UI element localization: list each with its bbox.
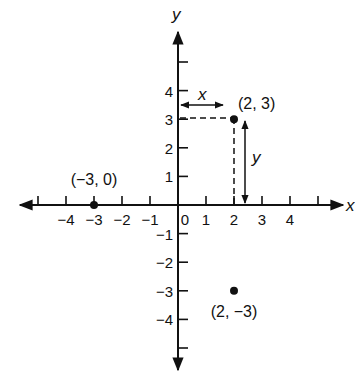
y-tick-label: −4 (156, 311, 173, 328)
data-point (230, 115, 238, 123)
x-tick-label: 1 (202, 211, 210, 228)
y-distance-label: y (251, 148, 262, 167)
x-tick-label: −3 (85, 211, 102, 228)
y-tick-label: 1 (165, 168, 173, 185)
x-tick-label: −2 (113, 211, 130, 228)
y-tick-label: 4 (165, 83, 173, 100)
x-tick-label: 2 (230, 211, 238, 228)
point-label: (−3, 0) (71, 171, 118, 188)
coordinate-plane-diagram: −4−3−2−101234 4321−1−2−3−4 x y x y (2, 3… (0, 0, 355, 389)
y-tick-label: 3 (165, 111, 173, 128)
x-tick-label: 0 (181, 211, 189, 228)
y-tick-label: −3 (156, 283, 173, 300)
y-tick-label: −1 (156, 226, 173, 243)
x-axis-tick-labels: −4−3−2−101234 (57, 211, 294, 228)
x-tick-label: −4 (57, 211, 74, 228)
y-tick-label: 2 (165, 140, 173, 157)
x-tick-label: 4 (286, 211, 294, 228)
y-axis-label: y (171, 5, 182, 24)
point-label: (2, −3) (211, 303, 258, 320)
x-distance-label: x (197, 85, 207, 104)
x-tick-label: 3 (258, 211, 266, 228)
x-axis-label: x (345, 196, 355, 215)
data-point (90, 201, 98, 209)
point-label: (2, 3) (238, 95, 275, 112)
data-point (230, 287, 238, 295)
y-tick-label: −2 (156, 254, 173, 271)
